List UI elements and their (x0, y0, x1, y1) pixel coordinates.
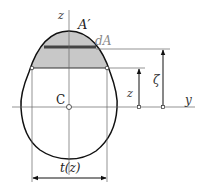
centroid-point (67, 105, 72, 110)
area-label: A′ (77, 17, 90, 32)
zeta-dimension-label: ζ (153, 73, 161, 87)
z-base-node (138, 106, 141, 109)
width-label: t(z) (60, 161, 81, 175)
strip-label: dA (95, 34, 112, 48)
z-axis-label: z (57, 9, 64, 22)
cut-point-right (105, 66, 109, 70)
cut-point-left (30, 66, 34, 70)
centroid-label: C (56, 93, 65, 107)
z-dimension-label: z (126, 87, 133, 100)
y-axis-label: y (184, 93, 192, 107)
cross-section-diagram: z A′ dA z ζ y C t(z) (0, 0, 203, 190)
zeta-base-node (162, 106, 165, 109)
